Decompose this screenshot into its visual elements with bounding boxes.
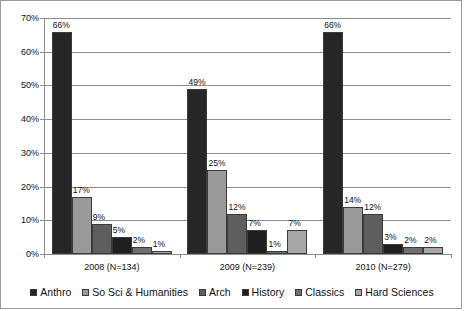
x-axis-category-label: 2009 (N=239) (180, 262, 316, 272)
bar (363, 214, 383, 254)
bar (423, 247, 443, 254)
bar-value-label: 3% (384, 233, 396, 242)
legend-label: Arch (209, 287, 231, 298)
bar-group: 66%14%12%3%2%2% (315, 18, 451, 254)
bar (72, 197, 92, 254)
bar (403, 247, 423, 254)
y-axis-tick-label: 0% (26, 250, 39, 259)
bar-group: 49%25%12%7%1%7% (180, 18, 316, 254)
bar-value-label: 49% (188, 78, 205, 87)
bar (227, 214, 247, 254)
legend-swatch-icon (355, 289, 362, 296)
y-axis-tick-label: 60% (21, 48, 39, 57)
legend-swatch-icon (295, 289, 302, 296)
legend-label: Hard Sciences (365, 287, 433, 298)
bar-value-label: 2% (404, 236, 416, 245)
bar-value-label: 2% (133, 236, 145, 245)
y-axis-tick-label: 30% (21, 149, 39, 158)
legend-label: Anthro (40, 287, 71, 298)
legend-item[interactable]: Classics (295, 287, 344, 298)
legend-item[interactable]: Anthro (30, 287, 71, 298)
bar (92, 224, 112, 254)
bar-value-label: 25% (208, 159, 225, 168)
bar (112, 237, 132, 254)
chart-container: 0%10%20%30%40%50%60%70% 66%17%9%5%2%1%49… (0, 0, 462, 309)
legend-item[interactable]: Hard Sciences (355, 287, 433, 298)
bar-value-label: 7% (248, 219, 260, 228)
legend-swatch-icon (242, 289, 249, 296)
y-axis-tick-label: 40% (21, 115, 39, 124)
legend-label: Classics (305, 287, 344, 298)
bar-value-label: 9% (93, 213, 105, 222)
bar-value-label: 7% (288, 219, 300, 228)
y-axis-tick-label: 10% (21, 216, 39, 225)
bar (132, 247, 152, 254)
y-axis-tick-label: 20% (21, 183, 39, 192)
bar (343, 207, 363, 254)
x-axis-category-label: 2008 (N=134) (44, 262, 180, 272)
x-axis-tick (44, 254, 45, 258)
bar-value-label: 2% (424, 236, 436, 245)
bar-value-label: 17% (73, 186, 90, 195)
bar-value-label: 5% (113, 226, 125, 235)
legend-swatch-icon (30, 289, 37, 296)
legend-item[interactable]: History (242, 287, 285, 298)
bar-value-label: 1% (268, 240, 280, 249)
chart-legend: AnthroSo Sci & HumanitiesArchHistoryClas… (1, 287, 463, 298)
y-axis-tick-label: 50% (21, 81, 39, 90)
bar (383, 244, 403, 254)
legend-label: So Sci & Humanities (92, 287, 188, 298)
x-axis-tick (451, 254, 452, 258)
bar (287, 230, 307, 254)
bar (187, 89, 207, 254)
x-axis-line (44, 254, 451, 255)
y-axis-tick-label: 70% (21, 14, 39, 23)
y-axis-labels: 0%10%20%30%40%50%60%70% (1, 1, 44, 311)
bar-value-label: 1% (153, 240, 165, 249)
bar-value-label: 66% (53, 21, 70, 30)
legend-item[interactable]: Arch (199, 287, 231, 298)
bar-value-label: 66% (324, 21, 341, 30)
legend-label: History (252, 287, 285, 298)
x-axis-tick (180, 254, 181, 258)
bar (52, 32, 72, 255)
bar (207, 170, 227, 254)
bar-value-label: 14% (344, 196, 361, 205)
bar (323, 32, 343, 255)
legend-swatch-icon (82, 289, 89, 296)
legend-item[interactable]: So Sci & Humanities (82, 287, 188, 298)
legend-swatch-icon (199, 289, 206, 296)
plot-area: 66%17%9%5%2%1%49%25%12%7%1%7%66%14%12%3%… (44, 18, 451, 254)
bar (247, 230, 267, 254)
bar-value-label: 12% (364, 203, 381, 212)
x-axis-category-label: 2010 (N=279) (315, 262, 451, 272)
bar-value-label: 12% (228, 203, 245, 212)
bar-group: 66%17%9%5%2%1% (44, 18, 180, 254)
x-axis-tick (315, 254, 316, 258)
